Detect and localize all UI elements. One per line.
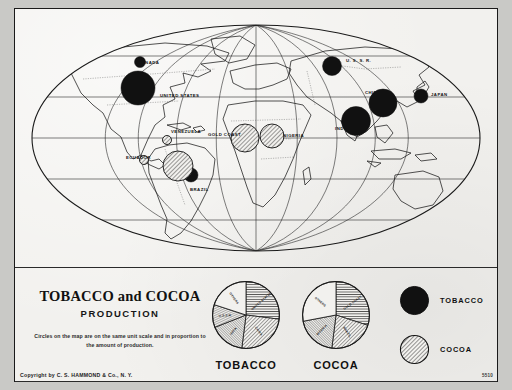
legend-label-cocoa: COCOA: [440, 345, 472, 354]
map-label-brazil: BRAZIL: [190, 187, 208, 192]
map-label-japan: JAPAN: [431, 92, 448, 97]
legend-label-tobacco: TOBACCO: [440, 296, 484, 305]
pie-slice-label-u-s-s-r-: U.S.S.R.: [219, 313, 232, 317]
page-subtitle: PRODUCTION: [31, 308, 209, 319]
cocoa-pie-chart[interactable]: GOLD COASTBRAZILNIGERIAOTHERS COCOA: [298, 277, 374, 371]
tobacco-swatch-icon: [399, 285, 430, 316]
map-label-canada: CANADA: [138, 60, 159, 65]
world-map[interactable]: CANADAUNITED STATESVENEZUELAECUADORBRAZI…: [15, 9, 497, 267]
title-block: TOBACCO and COCOA PRODUCTION Circles on …: [31, 288, 209, 350]
footer: Copyright by C. S. HAMMOND & Co., N. Y. …: [15, 381, 497, 382]
legend-item-tobacco[interactable]: TOBACCO: [399, 282, 499, 319]
map-label-gold-coast: GOLD COAST: [208, 132, 241, 137]
symbol-tobacco-united-states[interactable]: [121, 71, 155, 105]
map-label-india: INDIA: [335, 126, 349, 131]
symbol-cocoa-nigeria[interactable]: [260, 124, 284, 148]
cocoa-pie-caption: COCOA: [298, 359, 374, 371]
tobacco-pie-caption: TOBACCO: [208, 359, 284, 371]
symbol-tobacco-japan[interactable]: [414, 89, 428, 103]
map-plate: CANADAUNITED STATESVENEZUELAECUADORBRAZI…: [0, 0, 512, 390]
legend: TOBACCO COCOA: [399, 282, 499, 368]
map-label-nigeria: NIGERIA: [283, 133, 304, 138]
plate-code: 5510: [482, 373, 493, 378]
symbol-cocoa-brazil[interactable]: [163, 151, 193, 181]
paper-sheet: CANADAUNITED STATESVENEZUELAECUADORBRAZI…: [14, 8, 498, 382]
cocoa-pie-svg: GOLD COASTBRAZILNIGERIAOTHERS: [298, 277, 374, 353]
copyright-notice: Copyright by C. S. HAMMOND & Co., N. Y.: [20, 372, 133, 378]
map-label-ecuador: ECUADOR: [126, 155, 151, 160]
info-panel: TOBACCO and COCOA PRODUCTION Circles on …: [15, 268, 497, 381]
scale-note: Circles on the map are on the same unit …: [31, 332, 209, 350]
tobacco-pie-svg: UNITED STATESCHINAINDIAU.S.S.R.OTHERS: [208, 277, 284, 353]
production-symbols[interactable]: [121, 57, 428, 183]
map-label-china: CHINA: [365, 90, 381, 95]
symbol-tobacco-india[interactable]: [342, 107, 371, 136]
symbol-cocoa-venezuela[interactable]: [163, 136, 172, 145]
map-label-venezuela: VENEZUELA: [171, 129, 201, 134]
world-map-svg: CANADAUNITED STATESVENEZUELAECUADORBRAZI…: [15, 9, 497, 267]
tobacco-pie-chart[interactable]: UNITED STATESCHINAINDIAU.S.S.R.OTHERS TO…: [208, 277, 284, 371]
symbol-cocoa-gold-coast[interactable]: [231, 124, 259, 152]
legend-item-cocoa[interactable]: COCOA: [399, 331, 499, 368]
page-title: TOBACCO and COCOA: [31, 288, 209, 305]
map-label-united-states: UNITED STATES: [160, 93, 199, 98]
map-label-u-s-s-r-: U. S. S. R.: [346, 58, 371, 63]
cocoa-swatch-icon: [399, 334, 430, 365]
symbol-tobacco-u-s-s-r-[interactable]: [323, 57, 342, 76]
